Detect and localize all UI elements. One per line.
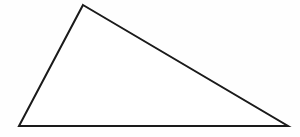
figure-canvas [0,0,300,137]
triangle-diagram [0,0,300,137]
